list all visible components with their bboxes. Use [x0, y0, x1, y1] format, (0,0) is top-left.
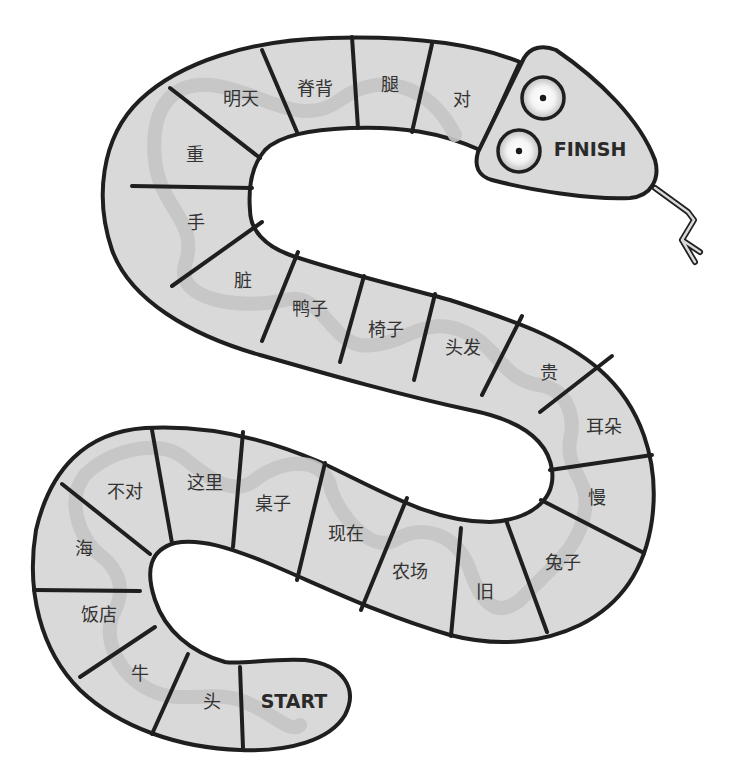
cell-label: 重	[186, 144, 204, 165]
cell-label: 椅子	[368, 319, 404, 340]
cell-label: 脏	[234, 270, 252, 291]
cell-label: 头	[203, 691, 221, 712]
cell-label: 头发	[445, 337, 481, 358]
cell-label: 桌子	[255, 493, 291, 514]
tongue-icon	[655, 188, 700, 262]
cell-label: 腿	[381, 74, 399, 95]
cell-label: 牛	[131, 663, 149, 684]
eye-upper-icon	[522, 77, 564, 119]
cell-label: 手	[187, 212, 205, 233]
cell-label: 兔子	[545, 552, 581, 573]
cell-label: 这里	[187, 472, 223, 493]
cell-label: 饭店	[81, 604, 117, 625]
cell-start: START	[261, 690, 328, 712]
cell-label: 农场	[392, 561, 428, 582]
cell-label: 耳朵	[586, 416, 622, 437]
cell-finish: FINISH	[554, 138, 627, 160]
cell-label: 对	[453, 89, 471, 110]
eye-lower-icon	[498, 130, 540, 172]
cell-label: 旧	[476, 581, 494, 602]
cell-label: 鸭子	[292, 298, 328, 319]
cell-label: 海	[75, 538, 93, 559]
cell-label: 慢	[588, 487, 606, 508]
cell-label: 贵	[540, 362, 558, 383]
cell-label: 不对	[107, 481, 143, 502]
cell-label: 明天	[223, 88, 259, 109]
cell-label: 脊背	[297, 78, 333, 99]
cell-label: 现在	[328, 523, 364, 544]
snake-game-board: START 头 牛 饭店 海 不对 这里 桌子 现在 农场 旧 兔子 慢 耳朵 …	[0, 0, 729, 783]
